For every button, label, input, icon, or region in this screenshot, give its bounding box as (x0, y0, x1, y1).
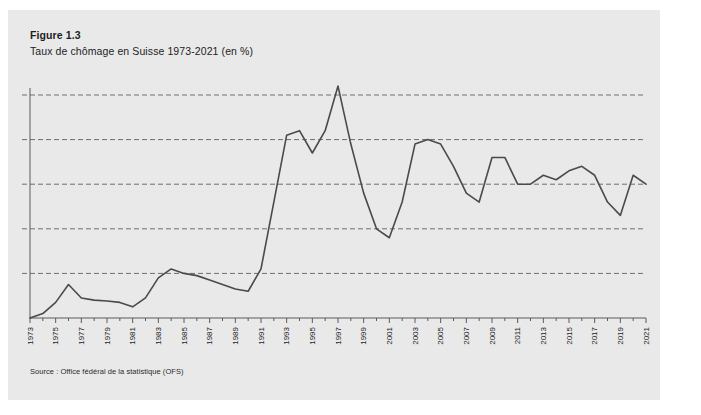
figure-header: Figure 1.3 Taux de chômage en Suisse 197… (30, 28, 253, 58)
figure-panel (8, 10, 660, 400)
figure-title: Taux de chômage en Suisse 1973-2021 (en … (30, 44, 253, 58)
source-note: Source : Office fédéral de la statistiqu… (30, 367, 184, 376)
figure-number: Figure 1.3 (30, 28, 253, 42)
